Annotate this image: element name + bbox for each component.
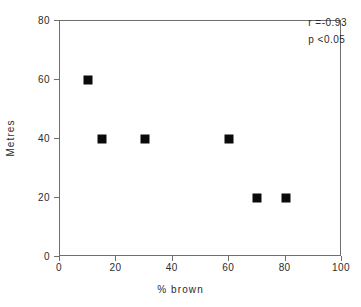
y-axis-tick <box>54 197 59 198</box>
plot-frame <box>59 20 341 256</box>
y-axis-tick-label: 40 <box>38 133 50 144</box>
x-axis-tick <box>341 256 342 261</box>
x-axis-tick-label: 20 <box>109 262 121 273</box>
y-axis-tick-label: 80 <box>38 15 50 26</box>
data-point <box>281 194 290 203</box>
scatter-plot-figure: 020406080100020406080 Metres % brown r =… <box>0 0 361 307</box>
data-point <box>98 135 107 144</box>
data-point <box>84 76 93 85</box>
statistics-annotation: r =-0.93 p <0.05 <box>308 14 347 48</box>
data-point <box>225 135 234 144</box>
y-axis-tick-label: 20 <box>38 192 50 203</box>
x-axis-tick <box>228 256 229 261</box>
y-axis-tick-label: 0 <box>44 251 50 262</box>
y-axis-tick <box>54 79 59 80</box>
data-point <box>140 135 149 144</box>
x-axis-tick-label: 100 <box>332 262 350 273</box>
x-axis-tick <box>59 256 60 261</box>
correlation-value: r =-0.93 <box>308 14 347 31</box>
x-axis-tick <box>285 256 286 261</box>
x-axis-tick <box>172 256 173 261</box>
x-axis-tick-label: 60 <box>222 262 234 273</box>
x-axis-label: % brown <box>0 284 361 295</box>
x-axis-tick-label: 0 <box>56 262 62 273</box>
x-axis-tick-label: 80 <box>279 262 291 273</box>
y-axis-label: Metres <box>5 119 16 156</box>
y-axis-tick-label: 60 <box>38 74 50 85</box>
y-axis-tick <box>54 20 59 21</box>
data-point <box>253 194 262 203</box>
y-axis-tick <box>54 138 59 139</box>
pvalue-text: p <0.05 <box>308 31 347 48</box>
x-axis-tick <box>115 256 116 261</box>
y-axis-tick <box>54 256 59 257</box>
x-axis-tick-label: 40 <box>166 262 178 273</box>
plot-area <box>60 21 340 255</box>
